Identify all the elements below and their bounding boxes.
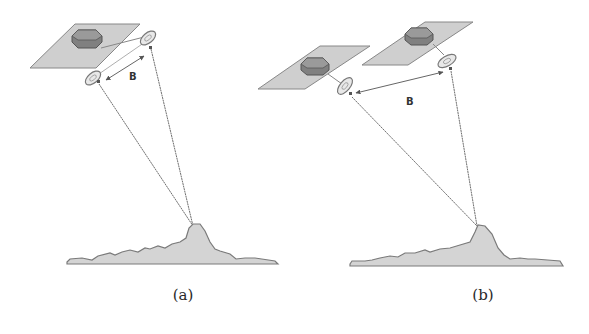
panel-a: B	[30, 24, 278, 264]
line-of-sight	[151, 49, 193, 226]
satellite-body-icon	[405, 28, 433, 45]
panel-b: B	[258, 22, 563, 266]
baseline-arrow	[106, 56, 144, 80]
antenna-icon	[436, 52, 458, 71]
caption-a: (a)	[173, 286, 194, 304]
baseline-label: B	[129, 71, 137, 82]
terrain-icon	[350, 225, 563, 266]
antenna-icon	[138, 28, 158, 49]
satellite-body-icon	[301, 58, 329, 75]
antenna-icon	[335, 75, 356, 97]
satellite-body-icon	[72, 30, 102, 48]
baseline-label: B	[406, 96, 414, 107]
terrain-icon	[67, 224, 278, 264]
caption-b: (b)	[472, 286, 493, 304]
line-of-sight	[99, 84, 193, 226]
baseline-arrow	[356, 72, 443, 93]
interferometry-diagram: B	[0, 0, 589, 334]
